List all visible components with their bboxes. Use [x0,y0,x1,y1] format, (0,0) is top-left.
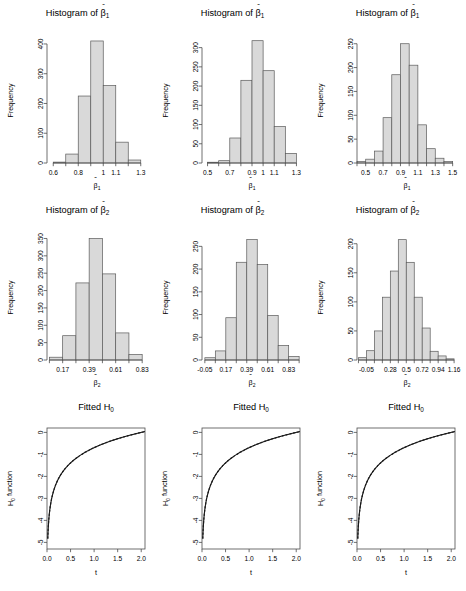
true-h0-curve [203,432,300,539]
histogram-bar [398,240,406,360]
y-tick-label: -5 [192,539,199,545]
y-tick-label: -4 [37,517,44,523]
hat-accent-icon: ˆ [412,2,415,11]
panel-title: Histogram of β1 [356,8,420,19]
histogram-bar [103,86,116,163]
histogram-bar [427,149,436,163]
hat-accent-icon: ˆ [249,175,252,184]
y-axis-label: Frequency [316,280,325,314]
hat-accent-icon: ˆ [94,175,97,184]
y-tick-label: 200 [192,263,199,274]
hat-accent-icon: ˆ [102,2,105,11]
y-tick-label: 250 [192,241,199,252]
fitted-h0-curve [48,432,145,539]
panel-title: Histogram of β1 [201,8,265,19]
y-tick-label: 50 [347,135,354,143]
y-axis-label: H0 function [5,471,15,506]
histogram-bar [89,238,102,360]
x-tick-label: 0.0 [197,555,206,562]
x-tick-label: 1.3 [136,169,145,176]
true-h0-curve [48,432,145,539]
panel-title: Histogram of β1 [46,8,110,19]
y-tick-label: 0 [192,358,199,362]
y-tick-label: 0 [192,430,199,434]
y-tick-label: 150 [347,267,354,278]
histogram-bar [435,158,444,163]
y-tick-label: 200 [347,62,354,73]
y-tick-label: -2 [347,473,354,479]
hat-accent-icon: ˆ [404,372,407,381]
panel-title: Fitted H0 [78,402,114,413]
x-tick-label: 1.1 [270,169,279,176]
x-tick-label: 0.28 [384,366,397,373]
y-tick-label: -3 [347,495,354,501]
panel-hist-beta1-a: Histogram of β1ˆ0100200300400Frequency0.… [0,0,155,197]
y-tick-label: 0 [37,358,44,362]
histogram-hist-beta1-c: Histogram of β1ˆ050100150200250Frequency… [310,0,465,197]
x-tick-label: 0.17 [219,366,232,373]
y-tick-label: -1 [37,451,44,457]
x-tick-label: 0.94 [432,366,445,373]
plot-grid: Histogram of β1ˆ0100200300400Frequency0.… [0,0,466,591]
histogram-bar [409,65,418,163]
y-tick-label: 0 [37,430,44,434]
y-tick-label: 0 [347,430,354,434]
y-tick-label: -2 [192,473,199,479]
histogram-bar [91,41,104,163]
histogram-bar [430,351,438,360]
y-axis-label: Frequency [161,83,170,117]
hat-accent-icon: ˆ [412,199,415,208]
y-tick-label: 250 [37,267,44,278]
x-tick-label: 2.0 [137,555,146,562]
x-tick-label: 1.5 [113,555,122,562]
hat-accent-icon: ˆ [257,199,260,208]
histogram-bar [252,41,263,163]
hat-accent-icon: ˆ [249,372,252,381]
x-tick-label: 1.0 [245,555,254,562]
y-tick-label: -5 [347,539,354,545]
y-tick-label: 150 [192,286,199,297]
y-tick-label: 350 [37,233,44,244]
y-tick-label: 100 [192,309,199,320]
y-axis-label: H0 function [315,471,325,506]
x-tick-label: 0.61 [261,366,274,373]
panel-fitted-h0-a: Fitted H00-1-2-3-4-50.00.51.01.52.0tH0 f… [0,394,155,591]
y-tick-label: 0 [347,358,354,362]
histogram-bar [422,328,430,360]
histogram-bar [263,71,274,163]
histogram-bar [366,159,375,163]
fitted-h0-curve [358,432,455,539]
true-h0-curve [358,432,455,539]
histogram-hist-beta2-c: Histogram of β2ˆ050100150200Frequency-0.… [310,197,465,394]
histogram-bar [438,356,446,360]
histogram-bar [400,44,409,163]
x-tick-label: 0.83 [136,366,149,373]
bars [53,41,141,163]
histogram-hist-beta2-b: Histogram of β2ˆ050100150200250Frequency… [155,197,310,394]
panel-hist-beta2-b: Histogram of β2ˆ050100150200250Frequency… [155,197,310,394]
y-axis-label: Frequency [161,280,170,314]
y-tick-label: 100 [347,109,354,120]
histogram-bar [383,118,392,163]
histogram-bar [418,125,427,163]
x-tick-label: 0.5 [221,555,230,562]
y-tick-label: 50 [347,327,354,335]
histogram-bar [274,126,285,163]
y-tick-label: 50 [37,339,44,347]
histogram-bar [247,240,257,360]
histogram-hist-beta2-a: Histogram of β2ˆ050100150200250300350Fre… [0,197,155,394]
y-tick-label: 0 [37,161,44,165]
histogram-hist-beta1-a: Histogram of β1ˆ0100200300400Frequency0.… [0,0,155,197]
histogram-bar [215,351,225,360]
histogram-bar [278,345,288,360]
x-tick-label: 1.0 [90,555,99,562]
panel-hist-beta1-b: Histogram of β1ˆ050100150200250300Freque… [155,0,310,197]
hat-accent-icon: ˆ [94,372,97,381]
y-tick-label: 200 [37,285,44,296]
x-tick-label: 1.0 [400,555,409,562]
panel-fitted-h0-b: Fitted H00-1-2-3-4-50.00.51.01.52.0tH0 f… [155,394,310,591]
x-tick-label: 0.61 [109,366,122,373]
y-tick-label: 100 [37,319,44,330]
y-tick-label: -5 [37,539,44,545]
x-tick-label: 1 [261,169,265,176]
